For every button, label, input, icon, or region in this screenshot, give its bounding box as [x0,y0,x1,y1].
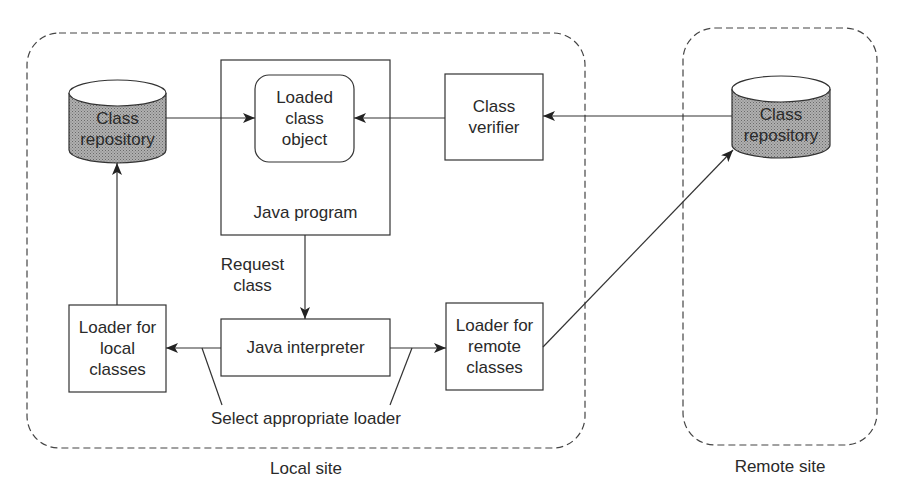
loader-remote-line2: remote [468,336,521,357]
local-site-label: Local site [236,458,376,479]
loaded-class-object-line2: class [285,108,324,129]
local-repository-line1: Class [96,108,139,129]
loaded-class-object-line1: Loaded [276,87,333,108]
request-class-line2: class [233,275,272,296]
remote-repository-line2: repository [744,125,819,146]
loader-remote-label: Loader for remote classes [446,303,543,390]
select-loader-callout-left [202,348,222,405]
remote-repository-line1: Class [760,104,803,125]
remote-site-label: Remote site [710,456,850,477]
select-loader-label: Select appropriate loader [186,408,426,429]
loader-local-label: Loader for local classes [69,305,166,392]
loader-local-line1: Loader for [79,317,157,338]
class-verifier-line2: verifier [468,117,519,138]
java-interpreter-text: Java interpreter [246,337,364,358]
loader-remote-line3: classes [466,357,523,378]
edge-remote-loader-to-repo [543,150,733,347]
loader-remote-line1: Loader for [456,315,534,336]
local-repository-line2: repository [80,129,155,150]
loader-local-line2: local [100,338,135,359]
class-verifier-line1: Class [473,96,516,117]
java-interpreter-label: Java interpreter [221,319,390,376]
java-program-label: Java program [221,202,390,223]
select-loader-callout-right [390,348,412,405]
remote-repository-label: Class repository [732,102,830,148]
class-verifier-label: Class verifier [445,74,543,160]
local-repository-label: Class repository [69,106,166,152]
loaded-class-object-line3: object [282,129,327,150]
loaded-class-object-label: Loaded class object [255,75,354,162]
request-class-label: Request class [205,254,300,296]
loader-local-line3: classes [89,359,146,380]
request-class-line1: Request [221,254,284,275]
